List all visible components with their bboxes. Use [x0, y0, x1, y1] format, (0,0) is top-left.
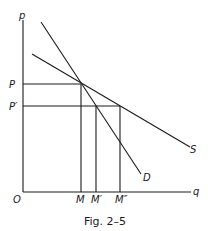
x-axis-label: q — [193, 186, 199, 197]
quantity-label-m: M — [76, 194, 85, 205]
demand-label: D — [143, 172, 151, 183]
economics-diagram: p q O P P′ M M′ M″ S D Fig. 2–5 — [0, 0, 211, 231]
quantity-label-m-double-prime: M″ — [115, 194, 128, 205]
figure-caption: Fig. 2–5 — [84, 215, 126, 228]
supply-label: S — [190, 144, 197, 155]
supply-curve — [32, 54, 190, 147]
price-label-p-prime: P′ — [9, 101, 18, 112]
quantity-label-m-prime: M′ — [91, 194, 103, 205]
y-axis-label: p — [18, 10, 25, 21]
demand-curve — [41, 22, 141, 174]
origin-label: O — [13, 194, 21, 205]
price-label-p: P — [9, 79, 16, 90]
